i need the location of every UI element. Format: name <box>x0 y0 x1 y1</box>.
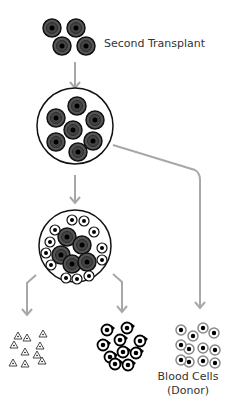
white-cells <box>98 323 149 371</box>
bone-marrow-stem-cells <box>37 88 113 164</box>
bone-marrow-mixed <box>39 210 111 284</box>
blood-cells-label: Blood Cells <box>153 370 223 384</box>
blood-cells-donor-label: Blood Cells (Donor) <box>153 370 223 398</box>
platelets <box>9 330 47 367</box>
second-transplant-label: Second Transplant <box>104 37 205 50</box>
transplant-diagram <box>0 0 235 408</box>
blood-cells-donor <box>176 323 220 368</box>
second-transplant-cells <box>43 19 95 55</box>
donor-label: (Donor) <box>153 384 223 398</box>
